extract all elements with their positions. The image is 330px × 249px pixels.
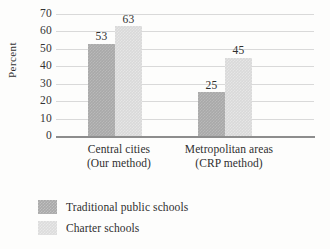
bar-value-45: 45 [224, 44, 254, 56]
y-tick-20: 20 [10, 95, 52, 106]
bar-central-cities-charter [115, 26, 142, 136]
category-label-line2: (CRP method) [169, 156, 289, 170]
bar-metropolitan-charter [225, 58, 252, 136]
chart-legend: Traditional public schools Charter schoo… [38, 196, 188, 238]
bar-value-63: 63 [114, 13, 144, 25]
bar-central-cities-traditional [88, 44, 115, 136]
y-tick-60: 60 [10, 25, 52, 36]
y-tick-30: 30 [10, 78, 52, 89]
category-label-metropolitan-areas: Metropolitan areas (CRP method) [169, 142, 289, 170]
category-label-line1: Metropolitan areas [169, 142, 289, 156]
legend-swatch-icon-charter [38, 221, 57, 235]
category-label-line2: (Our method) [59, 156, 179, 170]
x-axis-line [56, 136, 315, 138]
y-tick-0: 0 [10, 130, 52, 141]
legend-swatch-icon-traditional [38, 200, 57, 214]
legend-label-traditional: Traditional public schools [66, 201, 188, 213]
legend-label-charter: Charter schools [66, 222, 139, 234]
y-tick-50: 50 [10, 43, 52, 54]
bar-value-25: 25 [197, 79, 227, 91]
y-tick-40: 40 [10, 60, 52, 71]
y-tick-10: 10 [10, 113, 52, 124]
legend-item-traditional-public-schools: Traditional public schools [38, 196, 188, 217]
category-label-line1: Central cities [59, 142, 179, 156]
bar-value-53: 53 [87, 30, 117, 42]
y-tick-70: 70 [10, 8, 52, 19]
gridline-70 [56, 14, 314, 15]
bar-metropolitan-traditional [198, 92, 225, 136]
category-label-central-cities: Central cities (Our method) [59, 142, 179, 170]
bar-chart-figure: Percent 70 60 50 40 30 20 10 0 53 63 25 … [0, 0, 330, 249]
legend-item-charter-schools: Charter schools [38, 217, 188, 238]
y-axis-ticks: 70 60 50 40 30 20 10 0 [4, 14, 52, 136]
plot-area: 53 63 25 45 [56, 14, 314, 136]
